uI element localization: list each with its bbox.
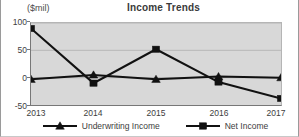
y-axis-tick-mark: [27, 49, 30, 50]
legend-square-marker-icon: [186, 121, 220, 131]
y-axis-tick-label: 0: [22, 73, 27, 83]
y-axis-tick-mark: [27, 77, 30, 78]
data-point-square-marker: [277, 95, 281, 101]
y-axis-tick-mark: [27, 21, 30, 22]
data-point-square-marker: [152, 46, 159, 52]
y-axis-tick-labels: 100500-50: [1, 22, 27, 106]
y-axis-tick-mark: [27, 105, 30, 106]
y-axis-tick-label: -50: [15, 101, 27, 111]
x-axis-tick-label: 2017: [267, 108, 286, 118]
data-point-square-marker: [31, 25, 35, 31]
y-axis-tick-label: 50: [18, 45, 27, 55]
legend-item[interactable]: Net Income: [186, 121, 268, 131]
y-axis-tick-label: 100: [13, 17, 27, 27]
plot-area: [30, 22, 282, 106]
data-point-square-marker: [199, 123, 206, 129]
plot-svg: [31, 23, 281, 105]
series-line: [31, 28, 281, 98]
x-axis-tick-label: 2015: [147, 108, 166, 118]
legend-label: Underwriting Income: [82, 121, 160, 131]
data-point-square-marker: [90, 80, 97, 86]
x-axis-tick-label: 2014: [84, 108, 103, 118]
chart-legend: Underwriting IncomeNet Income: [1, 119, 299, 133]
data-point-square-marker: [215, 79, 222, 85]
legend-triangle-marker-icon: [43, 121, 77, 131]
x-axis-tick-label: 2013: [27, 108, 46, 118]
legend-label: Net Income: [225, 121, 268, 131]
y-axis-unit-label: ($mil): [27, 3, 50, 13]
legend-item[interactable]: Underwriting Income: [43, 121, 160, 131]
data-series: [31, 25, 281, 101]
chart-figure: Income Trends ($mil) 100500-50 201320142…: [0, 0, 299, 137]
x-axis-tick-labels: 20132014201520162017: [30, 108, 282, 119]
x-axis-tick-label: 2016: [210, 108, 229, 118]
